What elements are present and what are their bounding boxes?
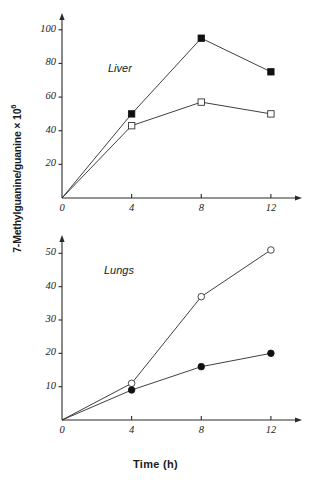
x-tick-label: 0 bbox=[48, 424, 76, 435]
data-point-filled-circle bbox=[128, 387, 135, 394]
panel-label-liver: Liver bbox=[108, 62, 132, 74]
data-point-filled-square bbox=[268, 69, 274, 75]
data-line-filled-square bbox=[62, 38, 271, 198]
y-tick-label: 100 bbox=[28, 23, 56, 34]
y-axis-arrowhead bbox=[59, 13, 64, 20]
data-point-open-circle bbox=[268, 247, 275, 254]
chart-panel-liver: 2040608010004812Liver bbox=[0, 0, 311, 232]
x-tick-label: 0 bbox=[48, 202, 76, 213]
y-axis-arrowhead bbox=[59, 235, 64, 242]
data-line-filled-circle bbox=[62, 353, 271, 420]
data-point-open-square bbox=[268, 111, 274, 117]
y-tick-label: 50 bbox=[28, 246, 56, 257]
x-tick-label: 4 bbox=[118, 202, 146, 213]
x-tick-label: 12 bbox=[257, 202, 285, 213]
data-point-filled-circle bbox=[198, 363, 205, 370]
data-point-filled-square bbox=[198, 35, 204, 41]
x-tick-label: 4 bbox=[118, 424, 146, 435]
y-tick-label: 40 bbox=[28, 124, 56, 135]
x-tick-label: 8 bbox=[187, 202, 215, 213]
x-tick-label: 8 bbox=[187, 424, 215, 435]
x-axis-label: Time (h) bbox=[0, 458, 311, 470]
data-line-open-circle bbox=[62, 250, 271, 420]
plot-area-liver bbox=[0, 0, 311, 232]
data-point-filled-circle bbox=[268, 350, 275, 357]
y-tick-label: 30 bbox=[28, 313, 56, 324]
data-point-open-square bbox=[198, 99, 204, 105]
data-point-open-square bbox=[128, 122, 134, 128]
y-tick-label: 40 bbox=[28, 280, 56, 291]
data-line-open-square bbox=[62, 102, 271, 198]
y-tick-label: 10 bbox=[28, 380, 56, 391]
chart-panel-lungs: 102030405004812Lungs bbox=[0, 222, 311, 454]
y-tick-label: 20 bbox=[28, 346, 56, 357]
y-tick-label: 20 bbox=[28, 157, 56, 168]
x-axis-arrowhead bbox=[295, 195, 302, 200]
data-point-open-circle bbox=[128, 380, 135, 387]
data-point-filled-square bbox=[128, 111, 134, 117]
x-tick-label: 12 bbox=[257, 424, 285, 435]
panel-label-lungs: Lungs bbox=[104, 264, 134, 276]
x-axis-arrowhead bbox=[295, 417, 302, 422]
figure-canvas: 7-Methylguanine/guanine × 106 2040608010… bbox=[0, 0, 311, 495]
y-tick-label: 60 bbox=[28, 90, 56, 101]
y-tick-label: 80 bbox=[28, 56, 56, 67]
data-point-open-circle bbox=[198, 293, 205, 300]
